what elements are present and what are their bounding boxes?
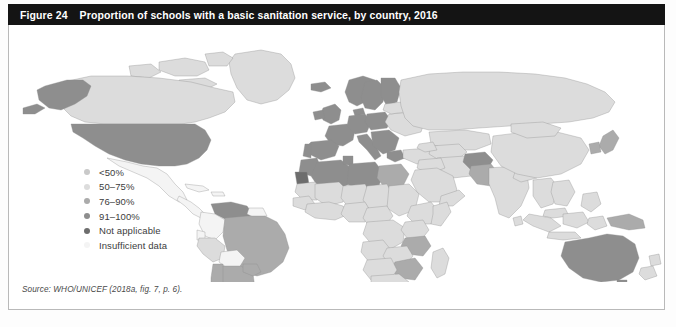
legend-item-91-100[interactable]: 91–100% (84, 209, 167, 224)
legend-swatch-lt50 (84, 169, 90, 175)
country-tasmania (617, 280, 627, 282)
country-sri-lanka (513, 216, 523, 226)
legend-label-50-75: 50–75% (99, 181, 134, 192)
figure-page: Figure 24 Proportion of schools with a b… (0, 0, 676, 327)
legend-swatch-insufficient-data (84, 242, 90, 248)
figure-number: Figure 24 (20, 9, 68, 21)
figure-title-bar: Figure 24 Proportion of schools with a b… (8, 4, 665, 25)
legend-label-not-applicable: Not applicable (99, 225, 161, 236)
country-republic-of-korea (589, 142, 601, 154)
legend-swatch-91-100 (84, 213, 90, 219)
legend-swatch-not-applicable (84, 228, 90, 234)
legend-label-lt50: <50% (99, 167, 124, 178)
map-legend: <50% 50–75% 76–90% 91–100% Not applicabl… (84, 165, 167, 253)
country-new-zealand-north (649, 254, 661, 266)
legend-item-lt50[interactable]: <50% (84, 165, 167, 180)
figure-title: Proportion of schools with a basic sanit… (80, 9, 438, 21)
legend-label-91-100: 91–100% (99, 211, 140, 222)
legend-swatch-50-75 (84, 184, 90, 190)
legend-label-76-90: 76–90% (99, 196, 134, 207)
country-hispaniola (211, 192, 225, 196)
legend-item-insufficient-data[interactable]: Insufficient data (84, 238, 167, 253)
country-ireland (313, 110, 325, 120)
source-note: Source: WHO/UNICEF (2018a, fig. 7, p. 6)… (22, 285, 182, 294)
legend-item-not-applicable[interactable]: Not applicable (84, 223, 167, 238)
legend-item-50-75[interactable]: 50–75% (84, 180, 167, 195)
legend-label-insufficient-data: Insufficient data (99, 240, 167, 251)
legend-swatch-76-90 (84, 198, 90, 204)
legend-item-76-90[interactable]: 76–90% (84, 194, 167, 209)
country-western-sahara (295, 172, 309, 184)
